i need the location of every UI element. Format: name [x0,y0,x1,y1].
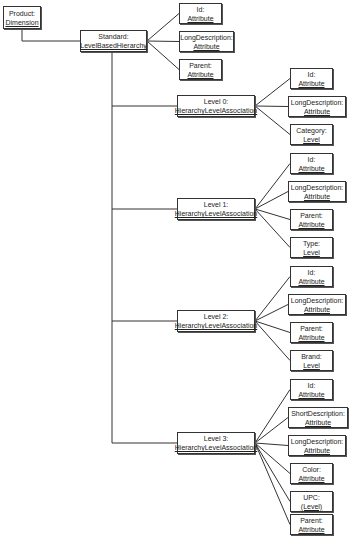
node-type: LevelBasedHierarchy [80,41,147,50]
connector-line [255,305,288,322]
node-name: Id: [308,268,316,277]
node-level2[interactable]: Level 2:HierarchyLevelAssociation [177,310,255,332]
node-name: Product: [9,9,35,18]
node-l3-parent[interactable]: Parent:Attribute [290,514,333,535]
node-type: Attribute [304,446,330,455]
node-l1-id[interactable]: Id:Attribute [290,153,333,174]
connector-line [255,390,290,444]
node-name: LongDescription: [180,33,233,42]
node-name: Id: [308,70,316,79]
node-name: Parent: [300,211,323,220]
node-name: UPC: [303,493,320,502]
node-l1-parent[interactable]: Parent:Attribute [290,209,333,230]
node-name: ShortDescription: [291,409,345,418]
node-name: Parent: [300,516,323,525]
node-l3-color[interactable]: Color:Attribute [290,463,333,484]
connector-line [255,106,288,107]
node-type: Attribute [187,14,213,23]
connector-line [255,209,290,248]
connector-line [255,443,290,474]
node-type: Attribute [305,418,331,427]
node-type: Dimension [5,18,38,27]
node-l0-id[interactable]: Id:Attribute [290,68,333,89]
node-type: Attribute [304,192,330,201]
node-name: LongDescription: [291,437,344,446]
node-name: Parent: [189,61,212,70]
connector-line [255,192,288,210]
node-name: Type: [303,239,320,248]
node-type: HierarchyLevelAssociation [175,209,257,218]
node-type: Attribute [304,305,330,314]
node-type: Attribute [298,474,324,483]
node-name: Id: [197,5,205,14]
node-type: Attribute [187,70,213,79]
connector-line [255,277,290,322]
node-level3[interactable]: Level 3:HierarchyLevelAssociation [177,432,255,454]
node-name: Level 3: [204,434,229,443]
node-type: Attribute [304,107,330,116]
connector-line [255,418,288,444]
connector-line [255,106,290,135]
node-type: Attribute [298,525,324,534]
node-l0-longdesc[interactable]: LongDescription:Attribute [288,96,346,117]
node-type: Attribute [298,220,324,229]
node-type: HierarchyLevelAssociation [175,106,257,115]
node-name: Level 1: [204,200,229,209]
node-name: LongDescription: [291,183,344,192]
node-type: (Level) [301,502,322,511]
node-name: Level 2: [204,312,229,321]
node-level1[interactable]: Level 1:HierarchyLevelAssociation [177,198,255,220]
node-l1-longdesc[interactable]: LongDescription:Attribute [288,181,346,202]
node-name: Color: [302,465,321,474]
node-product[interactable]: Product:Dimension [3,6,41,29]
node-name: Category: [296,126,326,135]
connector-line [255,164,290,210]
node-name: Id: [308,155,316,164]
node-type: HierarchyLevelAssociation [175,321,257,330]
node-l3-upc[interactable]: UPC:(Level) [290,491,333,512]
connector-line [147,14,179,42]
node-l2-parent[interactable]: Parent:Attribute [290,322,333,343]
node-type: Attribute [298,79,324,88]
node-l3-id[interactable]: Id:Attribute [290,379,333,400]
node-type: Attribute [298,277,324,286]
node-l1-type[interactable]: Type:Level [290,237,333,258]
node-name: Brand: [301,352,322,361]
node-name: Id: [308,381,316,390]
connector-line [255,443,288,446]
node-type: Attribute [193,42,219,51]
node-type: Level [303,361,320,370]
node-l0-category[interactable]: Category:Level [290,124,333,145]
node-type: HierarchyLevelAssociation [175,443,257,452]
node-name: Parent: [300,324,323,333]
node-l3-longdesc[interactable]: LongDescription:Attribute [288,435,346,456]
connector-line [147,41,179,42]
node-l2-longdesc[interactable]: LongDescription:Attribute [288,294,346,315]
node-type: Attribute [298,390,324,399]
node-type: Attribute [298,164,324,173]
node-type: Level [303,135,320,144]
node-l2-brand[interactable]: Brand:Level [290,350,333,371]
node-l3-shortdesc[interactable]: ShortDescription:Attribute [288,407,348,428]
connector-line [255,79,290,107]
node-name: Level 0: [204,97,229,106]
node-name: LongDescription: [291,98,344,107]
node-l2-id[interactable]: Id:Attribute [290,266,333,287]
node-std-parent[interactable]: Parent:Attribute [179,59,222,80]
node-std-longdesc[interactable]: LongDescription:Attribute [179,31,234,52]
node-standard[interactable]: Standard:LevelBasedHierarchy [80,30,147,52]
connector-line [255,443,290,525]
node-type: Level [303,248,320,257]
node-level0[interactable]: Level 0:HierarchyLevelAssociation [177,95,255,117]
node-name: Standard: [98,32,128,41]
connector-line [255,443,290,502]
node-std-id[interactable]: Id:Attribute [179,3,222,24]
connector-line [147,41,179,70]
node-name: LongDescription: [291,296,344,305]
node-type: Attribute [298,333,324,342]
